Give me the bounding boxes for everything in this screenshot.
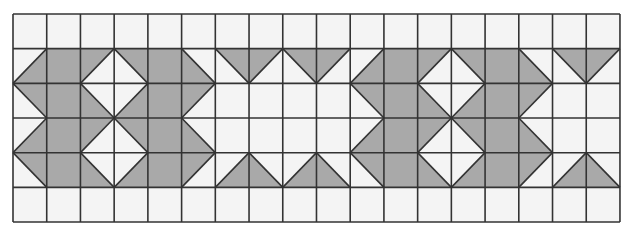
grid-cell xyxy=(47,83,81,118)
grid-cell xyxy=(485,153,519,188)
tile-pattern-grid xyxy=(0,0,632,239)
grid-cell xyxy=(485,83,519,118)
grid-cell xyxy=(47,49,81,84)
grid-cell xyxy=(384,153,418,188)
grid-cell xyxy=(47,118,81,153)
grid-cell xyxy=(384,49,418,84)
grid-cell xyxy=(485,118,519,153)
grid-cell xyxy=(384,118,418,153)
grid-cell xyxy=(384,83,418,118)
grid-cell xyxy=(47,153,81,188)
grid-cell xyxy=(148,49,182,84)
grid-cell xyxy=(148,83,182,118)
grid-cell xyxy=(485,49,519,84)
grid-cell xyxy=(148,153,182,188)
grid-cell xyxy=(148,118,182,153)
